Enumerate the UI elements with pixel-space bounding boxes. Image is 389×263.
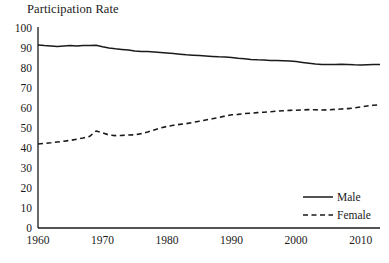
y-tick-label: 0 <box>2 222 32 234</box>
y-tick-label: 70 <box>2 82 32 94</box>
x-tick-label: 1980 <box>156 234 179 246</box>
y-tick-label: 30 <box>2 162 32 174</box>
data-series-group <box>38 45 380 144</box>
legend-label-female: Female <box>337 209 371 221</box>
y-tick-label: 80 <box>2 62 32 74</box>
y-tick-label: 90 <box>2 42 32 54</box>
y-tick-label: 50 <box>2 122 32 134</box>
x-tick-label: 1960 <box>27 234 50 246</box>
y-tick-label: 10 <box>2 202 32 214</box>
y-tick-label: 60 <box>2 102 32 114</box>
series-line-male <box>38 45 380 65</box>
y-tick-label: 40 <box>2 142 32 154</box>
x-tick-label: 2000 <box>285 234 308 246</box>
y-tick-label: 100 <box>2 22 32 34</box>
x-tick-label: 2010 <box>349 234 372 246</box>
series-line-female <box>38 105 380 144</box>
legend-label-male: Male <box>337 191 361 203</box>
y-tick-label: 20 <box>2 182 32 194</box>
x-tick-label: 1990 <box>220 234 243 246</box>
plot-area <box>0 0 389 263</box>
x-tick-label: 1970 <box>91 234 114 246</box>
legend-marks <box>303 197 333 215</box>
participation-rate-chart: Participation Rate 100908070605040302010… <box>0 0 389 263</box>
axes <box>38 27 380 228</box>
